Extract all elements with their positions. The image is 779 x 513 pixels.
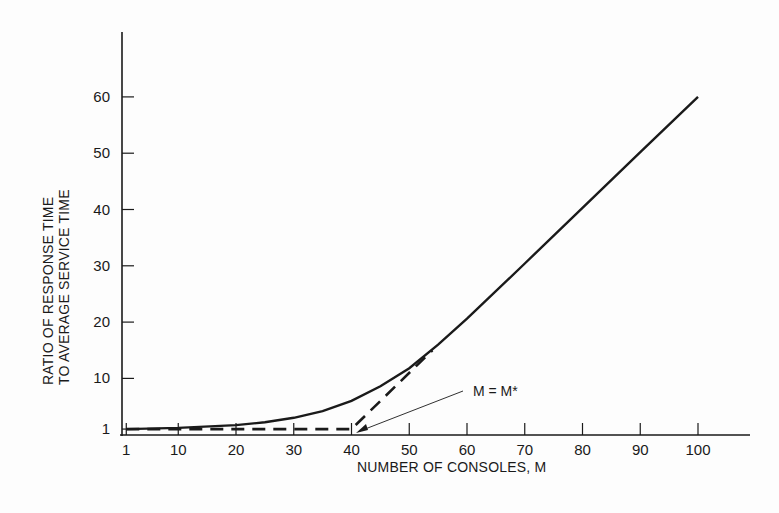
y-axis-title-line-2: TO AVERAGE SERVICE TIME bbox=[56, 189, 72, 385]
chart-svg: 1102030405060 1102030405060708090100 NUM… bbox=[0, 0, 779, 513]
response-time-curve bbox=[126, 97, 698, 429]
y-tick-label: 30 bbox=[93, 257, 110, 274]
y-tick-label: 40 bbox=[93, 201, 110, 218]
annotation-label: M = M* bbox=[473, 383, 518, 399]
x-tick-label: 80 bbox=[574, 441, 591, 458]
y-tick-label: 1 bbox=[102, 420, 110, 437]
x-tick-label: 90 bbox=[632, 441, 649, 458]
y-tick-label: 50 bbox=[93, 144, 110, 161]
annotation-leader-line bbox=[360, 391, 463, 431]
y-tick-label: 10 bbox=[93, 369, 110, 386]
x-tick-label: 20 bbox=[228, 441, 245, 458]
m-star-annotation: M = M* bbox=[356, 383, 518, 433]
y-ticks: 1102030405060 bbox=[93, 88, 134, 437]
x-tick-label: 1 bbox=[122, 441, 130, 458]
y-axis-title: RATIO OF RESPONSE TIME TO AVERAGE SERVIC… bbox=[40, 189, 72, 385]
y-tick-label: 20 bbox=[93, 313, 110, 330]
x-tick-label: 60 bbox=[459, 441, 476, 458]
x-tick-label: 40 bbox=[343, 441, 360, 458]
x-tick-label: 50 bbox=[401, 441, 418, 458]
y-tick-label: 60 bbox=[93, 88, 110, 105]
x-tick-label: 100 bbox=[685, 441, 710, 458]
x-tick-label: 70 bbox=[516, 441, 533, 458]
axes bbox=[120, 32, 750, 436]
arrowhead-icon bbox=[356, 424, 368, 433]
y-axis-title-line-1: RATIO OF RESPONSE TIME bbox=[40, 197, 56, 385]
x-axis-title: NUMBER OF CONSOLES, M bbox=[357, 459, 546, 475]
x-tick-label: 10 bbox=[170, 441, 187, 458]
x-tick-label: 30 bbox=[285, 441, 302, 458]
asymptote-dashed-line bbox=[126, 350, 432, 429]
